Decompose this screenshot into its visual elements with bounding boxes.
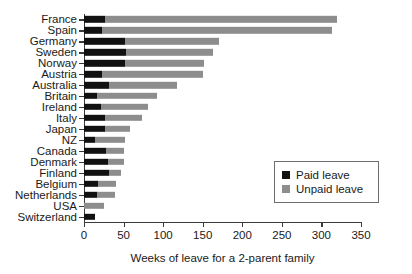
bar-row bbox=[84, 115, 361, 121]
bar-segment-paid-leave bbox=[84, 115, 105, 121]
x-axis-title: Weeks of leave for a 2-parent family bbox=[84, 252, 361, 264]
bar-row bbox=[84, 49, 361, 55]
x-axis-tick-label: 200 bbox=[233, 229, 252, 241]
x-axis-tick bbox=[242, 222, 243, 227]
x-axis-tick bbox=[282, 222, 283, 227]
bar-row bbox=[84, 71, 361, 77]
legend-label-paid-leave: Paid leave bbox=[296, 169, 350, 181]
bar-chart: FranceSpainGermanySwedenNorwayAustriaAus… bbox=[0, 0, 412, 274]
bar-segment-unpaid-leave bbox=[97, 191, 115, 197]
x-axis-tick-label: 100 bbox=[154, 229, 173, 241]
x-axis-tick-label: 250 bbox=[272, 229, 291, 241]
bar-segment-unpaid-leave bbox=[105, 126, 130, 132]
bar-segment-paid-leave bbox=[84, 191, 97, 197]
bar-segment-paid-leave bbox=[84, 38, 125, 44]
bar-row bbox=[84, 38, 361, 44]
bar-segment-unpaid-leave bbox=[105, 16, 337, 22]
bar-segment-unpaid-leave bbox=[109, 82, 178, 88]
x-axis-tick-label: 0 bbox=[81, 229, 87, 241]
bar-segment-paid-leave bbox=[84, 148, 106, 154]
bar-segment-paid-leave bbox=[84, 137, 95, 143]
bar-segment-paid-leave bbox=[84, 16, 105, 22]
bar-segment-unpaid-leave bbox=[98, 180, 116, 186]
bar-row bbox=[84, 213, 361, 219]
x-axis-tick-label: 150 bbox=[193, 229, 212, 241]
x-axis-tick bbox=[84, 222, 85, 227]
bar-segment-unpaid-leave bbox=[108, 159, 125, 165]
bar-row bbox=[84, 27, 361, 33]
bar-row bbox=[84, 148, 361, 154]
bar-segment-unpaid-leave bbox=[95, 137, 125, 143]
bar-segment-paid-leave bbox=[84, 104, 101, 110]
bar-row bbox=[84, 202, 361, 208]
legend-item-unpaid-leave: Unpaid leave bbox=[282, 182, 370, 196]
legend-label-unpaid-leave: Unpaid leave bbox=[296, 183, 363, 195]
x-axis-tick-label: 50 bbox=[117, 229, 130, 241]
x-axis-tick bbox=[124, 222, 125, 227]
bar-row bbox=[84, 16, 361, 22]
x-axis-tick bbox=[321, 222, 322, 227]
bar-segment-unpaid-leave bbox=[125, 38, 218, 44]
bar-row bbox=[84, 82, 361, 88]
bar-segment-paid-leave bbox=[84, 82, 109, 88]
bar-row bbox=[84, 126, 361, 132]
bar-segment-paid-leave bbox=[84, 49, 126, 55]
bar-row bbox=[84, 60, 361, 66]
bar-segment-unpaid-leave bbox=[102, 71, 203, 77]
bar-segment-paid-leave bbox=[84, 170, 109, 176]
bar-segment-unpaid-leave bbox=[109, 170, 121, 176]
x-axis-tick-label: 350 bbox=[351, 229, 370, 241]
bar-segment-paid-leave bbox=[84, 27, 102, 33]
x-axis-tick-label: 300 bbox=[312, 229, 331, 241]
x-axis-tick bbox=[163, 222, 164, 227]
y-axis-tick-label: Switzerland bbox=[18, 211, 77, 222]
bar-segment-unpaid-leave bbox=[101, 104, 148, 110]
bar-segment-paid-leave bbox=[84, 71, 102, 77]
legend-swatch-paid-leave bbox=[282, 171, 290, 179]
bar-segment-unpaid-leave bbox=[106, 148, 124, 154]
bar-segment-paid-leave bbox=[84, 213, 95, 219]
bar-row bbox=[84, 93, 361, 99]
bar-segment-unpaid-leave bbox=[84, 202, 104, 208]
legend-swatch-unpaid-leave bbox=[282, 185, 290, 193]
bar-segment-paid-leave bbox=[84, 159, 108, 165]
x-axis-tick bbox=[203, 222, 204, 227]
bar-segment-paid-leave bbox=[84, 60, 125, 66]
x-axis-line bbox=[84, 222, 361, 223]
bar-row bbox=[84, 137, 361, 143]
bar-segment-paid-leave bbox=[84, 180, 98, 186]
bar-segment-unpaid-leave bbox=[125, 60, 204, 66]
chart-legend: Paid leave Unpaid leave bbox=[274, 161, 379, 203]
bar-segment-paid-leave bbox=[84, 126, 105, 132]
bar-segment-unpaid-leave bbox=[97, 93, 156, 99]
bar-segment-unpaid-leave bbox=[126, 49, 213, 55]
bar-segment-unpaid-leave bbox=[102, 27, 332, 33]
bar-row bbox=[84, 104, 361, 110]
bar-segment-unpaid-leave bbox=[105, 115, 142, 121]
x-axis-tick bbox=[361, 222, 362, 227]
legend-item-paid-leave: Paid leave bbox=[282, 168, 370, 182]
bar-segment-paid-leave bbox=[84, 93, 97, 99]
